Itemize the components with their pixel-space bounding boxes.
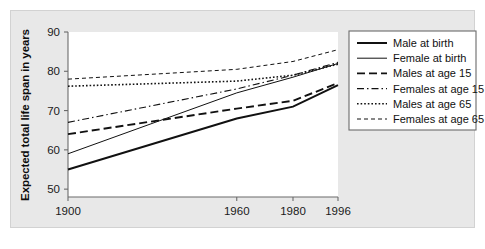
legend-label-males-at-age-15: Males at age 15 xyxy=(393,67,471,79)
x-tick-label-1980: 1980 xyxy=(280,205,306,217)
y-tick-label-60: 60 xyxy=(47,144,60,156)
x-tick-label-1900: 1900 xyxy=(55,205,81,217)
y-axis-ticks: 5060708090 xyxy=(47,26,68,195)
legend-label-female-at-birth: Female at birth xyxy=(393,52,466,64)
y-tick-label-80: 80 xyxy=(47,65,60,77)
x-tick-label-1996: 1996 xyxy=(325,205,351,217)
chart-figure: 5060708090 1900196019801996 Expected tot… xyxy=(0,0,485,249)
life-expectancy-line-chart: 5060708090 1900196019801996 Expected tot… xyxy=(0,0,485,249)
y-tick-label-90: 90 xyxy=(47,26,60,38)
x-axis-ticks: 1900196019801996 xyxy=(55,197,351,217)
legend-label-male-at-birth: Male at birth xyxy=(393,37,454,49)
x-tick-label-1960: 1960 xyxy=(224,205,250,217)
y-axis-title: Expected total life span in years xyxy=(19,29,31,201)
legend-label-females-at-age-65: Females at age 65 xyxy=(393,113,484,125)
y-tick-label-50: 50 xyxy=(47,183,60,195)
y-tick-label-70: 70 xyxy=(47,105,60,117)
legend-label-males-at-age-65: Males at age 65 xyxy=(393,98,471,110)
legend-label-females-at-age-15: Females at age 15 xyxy=(393,83,484,95)
